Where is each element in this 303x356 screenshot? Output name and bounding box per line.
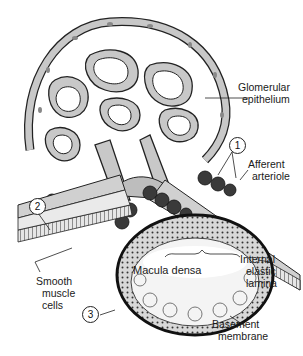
marker-3: 3 [82,306,99,323]
marker-1: 1 [229,137,246,154]
label-smooth-muscle-cells: Smooth muscle cells [36,275,75,311]
label-glomerular-epithelium: Glomerular epithelium [238,81,290,105]
label-internal-elastic-lamina: Internal elastic lamina [240,253,277,289]
marker-2: 2 [29,198,46,215]
label-afferent-arteriole: Afferent arteriole [248,158,290,182]
label-basement-membrane: Basement membrane [212,318,268,342]
label-macula-densa: Macula densa [133,264,202,276]
juxtaglomerular-diagram: 1 2 3 Glomerular epithelium Afferent art… [0,0,303,356]
